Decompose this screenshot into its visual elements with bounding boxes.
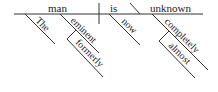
predicate-adjective-divider xyxy=(130,3,140,14)
subject-word: man xyxy=(48,2,67,14)
modifier-the: The xyxy=(34,15,53,34)
modifier-now: now xyxy=(120,16,141,37)
verb-word: is xyxy=(110,2,117,14)
sentence-diagram: man is unknown The eminent formerly now … xyxy=(0,0,218,92)
predicate-adjective-word: unknown xyxy=(150,2,191,14)
